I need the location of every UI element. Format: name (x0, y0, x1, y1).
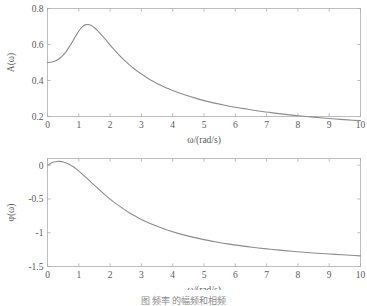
phase-plot: 012345678910 -1.5-1-0.50 ω/(rad/s) φ(ω) (0, 150, 367, 290)
y-tick-label: 0.4 (32, 76, 44, 86)
plot-frame (48, 159, 361, 267)
x-tick-label: 3 (139, 270, 144, 280)
figure-container: 012345678910 0.20.40.60.8 ω/(rad/s) A(ω)… (0, 0, 367, 306)
x-tick-labels: 012345678910 (45, 120, 365, 130)
y-tick-label: 0 (39, 161, 44, 171)
y-tick-label: 0.8 (32, 4, 44, 14)
figure-caption: 图 频率 的幅频和相频 (0, 294, 367, 306)
phase-curve (48, 161, 361, 255)
x-tick-label: 4 (170, 270, 175, 280)
x-tick-label: 2 (108, 120, 113, 130)
y-tick-label: -1 (36, 228, 44, 238)
x-tick-label: 0 (45, 270, 50, 280)
x-axis-title: ω/(rad/s) (187, 135, 221, 146)
x-tick-label: 5 (202, 120, 207, 130)
y-axis-title: A(ω) (6, 53, 17, 72)
x-tick-label: 1 (76, 120, 81, 130)
phase-series (48, 161, 361, 255)
chart-panel-phase: 012345678910 -1.5-1-0.50 ω/(rad/s) φ(ω) (0, 150, 367, 290)
x-tick-label: 6 (233, 120, 238, 130)
x-tick-label: 8 (296, 270, 301, 280)
y-tick-label: -1.5 (28, 262, 43, 272)
y-tick-labels: -1.5-1-0.50 (28, 161, 43, 272)
x-tick-label: 3 (139, 120, 144, 130)
x-tick-label: 9 (327, 270, 332, 280)
x-tick-label: 0 (45, 120, 50, 130)
y-axis-title: φ(ω) (6, 203, 17, 221)
y-tick-labels: 0.20.40.60.8 (32, 4, 44, 122)
amplitude-plot: 012345678910 0.20.40.60.8 ω/(rad/s) A(ω) (0, 0, 367, 150)
x-axis-title: ω/(rad/s) (187, 285, 221, 291)
x-tick-label: 7 (264, 120, 269, 130)
x-tick-label: 7 (264, 270, 269, 280)
tick-marks (48, 159, 361, 267)
x-tick-label: 8 (296, 120, 301, 130)
x-tick-label: 6 (233, 270, 238, 280)
y-tick-label: -0.5 (28, 194, 43, 204)
x-tick-label: 1 (76, 270, 81, 280)
x-tick-label: 9 (327, 120, 332, 130)
chart-panel-amplitude: 012345678910 0.20.40.60.8 ω/(rad/s) A(ω) (0, 0, 367, 150)
y-tick-label: 0.2 (32, 112, 44, 122)
x-tick-label: 10 (356, 270, 366, 280)
phase-axes (48, 159, 361, 267)
x-tick-labels: 012345678910 (45, 270, 365, 280)
x-tick-label: 5 (202, 270, 207, 280)
y-tick-label: 0.6 (32, 40, 44, 50)
x-tick-label: 10 (356, 120, 366, 130)
x-tick-label: 2 (108, 270, 113, 280)
x-tick-label: 4 (170, 120, 175, 130)
amplitude-curve (48, 24, 361, 120)
amplitude-series (48, 24, 361, 120)
